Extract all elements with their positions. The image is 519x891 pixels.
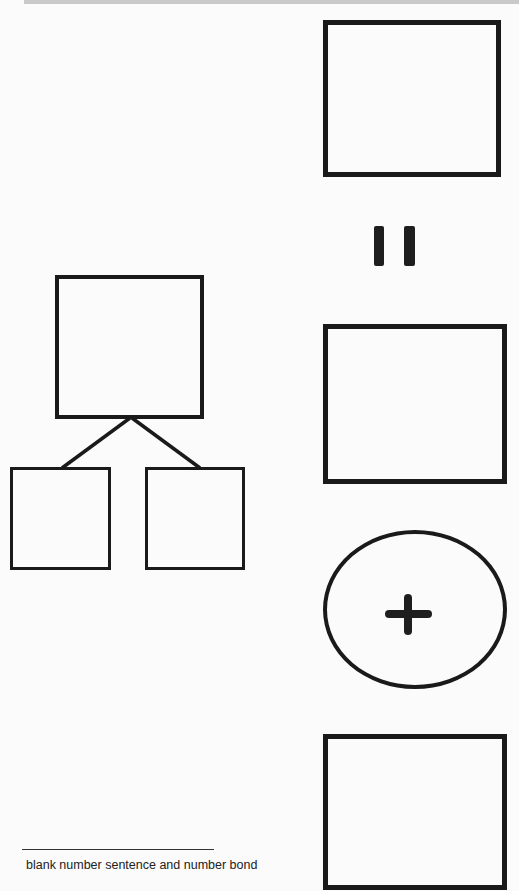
number-bond-connectors xyxy=(0,0,519,891)
part-box-left[interactable] xyxy=(10,467,111,570)
footnote-divider xyxy=(22,849,214,850)
part-box-right[interactable] xyxy=(145,467,245,570)
connector-left xyxy=(62,418,130,468)
connector-right xyxy=(132,418,200,468)
caption-text: blank number sentence and number bond xyxy=(26,858,257,872)
